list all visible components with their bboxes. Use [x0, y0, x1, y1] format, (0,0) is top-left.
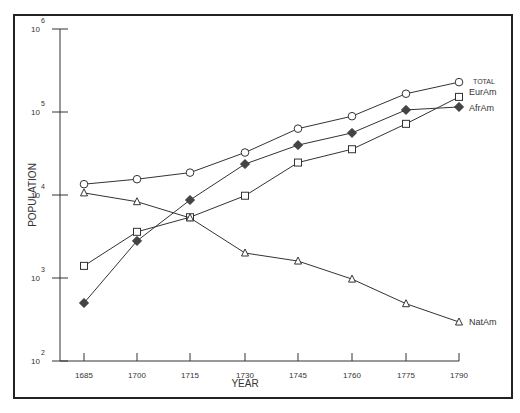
series-label-total: TOTAL [473, 78, 495, 85]
square-marker [403, 120, 410, 127]
circle-marker [294, 125, 302, 133]
diamond-marker [348, 128, 357, 137]
x-tick-label: 1685 [75, 371, 93, 380]
circle-marker [348, 112, 356, 120]
square-marker [349, 146, 356, 153]
x-tick-label: 1790 [450, 371, 468, 380]
circle-marker [241, 149, 249, 157]
x-axis-label: YEAR [231, 378, 258, 389]
y-tick-exponent: 2 [41, 349, 45, 356]
square-marker [81, 262, 88, 269]
x-tick-label: 1760 [343, 371, 361, 380]
x-tick-label: 1700 [128, 371, 146, 380]
x-tick-label: 1715 [181, 371, 199, 380]
y-tick-label: 10 [31, 274, 40, 283]
triangle-marker [242, 249, 249, 256]
diamond-marker [455, 102, 464, 111]
series-natam: NatAm [81, 189, 497, 327]
series-total: TOTAL [80, 78, 495, 188]
y-axis-label: POPULATION [27, 163, 38, 227]
diamond-marker [294, 141, 303, 150]
y-tick-exponent: 6 [41, 17, 45, 24]
y-tick-label: 10 [31, 357, 40, 366]
y-tick-exponent: 4 [41, 183, 45, 190]
x-tick-label: 1775 [397, 371, 415, 380]
square-marker [456, 93, 463, 100]
series-group: TOTALEurAmAfrAmNatAm [80, 78, 497, 327]
population-chart: 1021031041051061685170017151730174517601… [0, 0, 520, 413]
diamond-marker [402, 105, 411, 114]
y-tick-exponent: 5 [41, 100, 45, 107]
chart-frame [14, 15, 512, 398]
circle-marker [186, 169, 194, 177]
y-tick-exponent: 3 [41, 266, 45, 273]
series-line [84, 82, 459, 184]
triangle-marker [81, 189, 88, 196]
diamond-marker [186, 196, 195, 205]
square-marker [134, 228, 141, 235]
x-tick-label: 1745 [289, 371, 307, 380]
series-label-afram: AfrAm [469, 103, 494, 113]
triangle-marker [403, 300, 410, 307]
series-line [84, 193, 459, 322]
square-marker [242, 192, 249, 199]
square-marker [295, 159, 302, 166]
diamond-marker [241, 160, 250, 169]
y-tick-label: 10 [31, 108, 40, 117]
series-label-euram: EurAm [469, 87, 497, 97]
circle-marker [455, 78, 463, 86]
circle-marker [402, 90, 410, 98]
circle-marker [133, 175, 141, 183]
circle-marker [80, 180, 88, 188]
axes: 1021031041051061685170017151730174517601… [31, 17, 468, 380]
series-label-natam: NatAm [469, 317, 497, 327]
y-tick-label: 10 [31, 25, 40, 34]
